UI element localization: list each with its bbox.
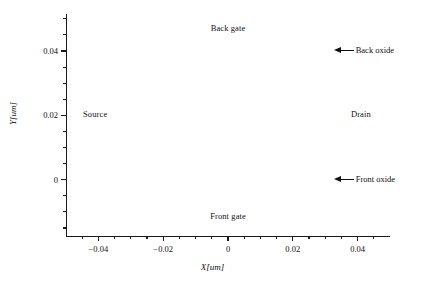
annotation-label-back-oxide: Back oxide xyxy=(356,45,394,55)
x-tick-major xyxy=(98,236,99,241)
y-tick-major xyxy=(61,179,66,180)
y-tick-minor xyxy=(63,83,66,84)
y-tick-minor xyxy=(63,211,66,212)
device-cross-section-figure: Front gateBack gateSourceDrain X[um] Y[u… xyxy=(0,0,425,293)
x-axis-title: X[um] xyxy=(0,262,425,272)
x-tick-minor xyxy=(195,236,196,239)
y-tick-minor xyxy=(63,67,66,68)
y-tick-minor xyxy=(63,99,66,100)
y-tick-label: 0.04 xyxy=(26,46,58,56)
y-tick-minor xyxy=(63,18,66,19)
y-tick-minor xyxy=(63,131,66,132)
x-tick-minor xyxy=(308,236,309,239)
y-axis-title: Y[um] xyxy=(8,102,18,125)
x-tick-minor xyxy=(179,236,180,239)
region-label-drain: Drain xyxy=(332,109,390,119)
y-axis-line xyxy=(66,14,67,236)
x-tick-minor xyxy=(276,236,277,239)
annotation-back-oxide: Back oxide xyxy=(334,45,394,55)
annotation-label-front-oxide: Front oxide xyxy=(356,174,395,184)
arrow-left-icon xyxy=(334,176,354,183)
y-axis-title-text: Y[um] xyxy=(8,102,18,125)
region-label-back-gate: Back gate xyxy=(124,23,331,33)
y-tick-minor xyxy=(63,163,66,164)
x-tick-label: 0.02 xyxy=(285,244,300,254)
x-tick-label: 0 xyxy=(226,244,230,254)
x-tick-minor xyxy=(325,236,326,239)
x-tick-minor xyxy=(244,236,245,239)
region-label-front-gate: Front gate xyxy=(124,211,331,221)
arrow-left-icon xyxy=(334,47,354,54)
x-tick-major xyxy=(163,236,164,241)
y-tick-minor xyxy=(63,227,66,228)
y-tick-label: 0 xyxy=(26,175,58,185)
x-tick-minor xyxy=(114,236,115,239)
y-tick-minor xyxy=(63,147,66,148)
x-tick-minor xyxy=(82,236,83,239)
y-tick-major xyxy=(61,115,66,116)
x-tick-major xyxy=(357,236,358,241)
y-tick-label: 0.02 xyxy=(26,110,58,120)
x-tick-minor xyxy=(260,236,261,239)
annotation-front-oxide: Front oxide xyxy=(334,174,395,184)
region-label-source: Source xyxy=(66,109,124,119)
y-tick-minor xyxy=(63,34,66,35)
x-tick-major xyxy=(292,236,293,241)
x-tick-major xyxy=(227,236,228,241)
x-tick-minor xyxy=(211,236,212,239)
x-tick-label: −0.04 xyxy=(89,244,109,254)
x-tick-minor xyxy=(130,236,131,239)
x-tick-label: −0.02 xyxy=(153,244,173,254)
x-tick-minor xyxy=(373,236,374,239)
y-tick-minor xyxy=(63,195,66,196)
x-tick-label: 0.04 xyxy=(350,244,365,254)
x-tick-minor xyxy=(146,236,147,239)
y-tick-major xyxy=(61,50,66,51)
x-tick-minor xyxy=(341,236,342,239)
x-axis-title-text: X[um] xyxy=(201,262,225,272)
